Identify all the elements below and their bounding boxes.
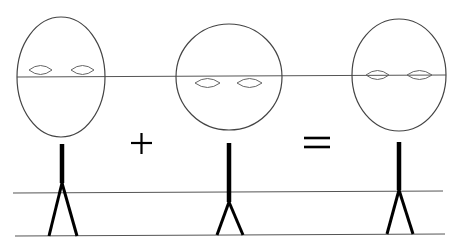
figure-2 bbox=[176, 24, 282, 235]
right-eye bbox=[237, 79, 262, 88]
right-eye bbox=[71, 66, 94, 75]
right-leg bbox=[229, 202, 243, 235]
right-leg bbox=[62, 183, 77, 236]
figure-1 bbox=[17, 17, 105, 236]
figure-3 bbox=[352, 19, 446, 234]
left-eye bbox=[195, 79, 220, 88]
equals-sign bbox=[304, 138, 330, 147]
left-leg bbox=[49, 183, 62, 236]
eye-level-line bbox=[17, 75, 446, 77]
left-eye bbox=[29, 66, 52, 75]
left-leg bbox=[217, 202, 229, 235]
round-head bbox=[176, 24, 282, 130]
stick-figure-diagram bbox=[0, 0, 459, 247]
plus-sign bbox=[131, 133, 152, 154]
left-leg bbox=[387, 190, 399, 234]
ground-line bbox=[15, 234, 445, 236]
right-leg bbox=[399, 190, 413, 234]
